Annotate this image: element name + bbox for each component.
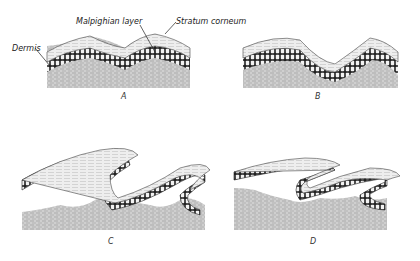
panel-a-illustration xyxy=(35,22,190,88)
epidermis-diagram xyxy=(0,0,420,261)
panel-d-illustration xyxy=(234,158,400,230)
malpighian-layer-label: Malpighian layer xyxy=(76,17,142,26)
panel-c-illustration xyxy=(22,148,210,230)
panel-b-illustration xyxy=(243,38,398,88)
panel-a-label: A xyxy=(121,92,126,101)
panel-b-label: B xyxy=(315,92,321,101)
panel-c-label: C xyxy=(108,237,114,246)
stratum-corneum-label: Stratum corneum xyxy=(176,17,246,26)
dermis-label: Dermis xyxy=(12,44,41,53)
panel-d-label: D xyxy=(310,237,316,246)
